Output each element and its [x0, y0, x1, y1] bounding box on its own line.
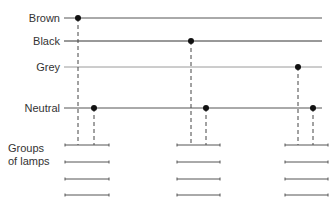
wire-label-grey: Grey [36, 61, 60, 73]
wire-label-brown: Brown [29, 12, 60, 24]
groups-label-line2: of lamps [8, 155, 50, 167]
wire-label-black: Black [33, 35, 60, 47]
junction-dot-neutral-1 [91, 105, 97, 111]
wire-label-neutral: Neutral [25, 102, 60, 114]
junction-dot-black [188, 38, 194, 44]
groups-label-line1: Groups [8, 142, 45, 154]
junction-dot-grey [295, 64, 301, 70]
junction-dot-neutral-2 [203, 105, 209, 111]
wiring-diagram: Brown Black Grey Neutral Groups of lamps [0, 0, 335, 210]
junction-dot-brown [75, 15, 81, 21]
junction-dot-neutral-3 [310, 105, 316, 111]
